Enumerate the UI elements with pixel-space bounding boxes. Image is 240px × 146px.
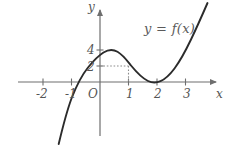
y-axis-label: y: [88, 1, 95, 13]
x-tick-label-neg1: -1: [65, 88, 77, 100]
x-axis-label: x: [216, 88, 223, 100]
x-tick-label-1: 1: [126, 88, 134, 100]
function-graph-figure: -2 -1 1 2 3 O 2 4 x y y = f(x): [0, 0, 240, 146]
y-tick-label-2: 2: [87, 61, 95, 73]
graph-canvas: [0, 0, 240, 146]
x-tick-label-neg2: -2: [36, 88, 48, 100]
origin-label: O: [88, 88, 98, 100]
function-label: y = f(x): [144, 22, 195, 35]
x-tick-label-2: 2: [154, 88, 162, 100]
x-tick-label-3: 3: [183, 88, 191, 100]
y-tick-label-4: 4: [87, 44, 95, 56]
